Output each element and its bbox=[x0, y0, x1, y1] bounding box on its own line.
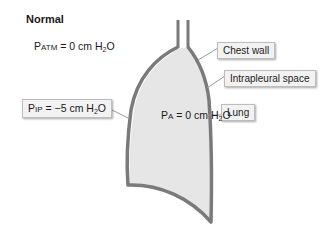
trachea-icon bbox=[178, 20, 188, 48]
pressure-value: = −5 cm H bbox=[43, 102, 94, 114]
lung-chest-diagram bbox=[0, 0, 335, 245]
intrapleural-space-label: Intrapleural space bbox=[224, 70, 316, 87]
p-symbol: P bbox=[28, 102, 35, 114]
intrapleural-leader bbox=[207, 76, 225, 88]
pressure-subscript: IP bbox=[35, 105, 43, 114]
alveolar-pressure-label: PA = 0 cm H2O bbox=[161, 109, 231, 122]
h2o-suffix: O bbox=[98, 102, 106, 114]
h2o-suffix: O bbox=[223, 109, 231, 121]
pressure-value: = 0 cm H bbox=[173, 109, 218, 121]
p-symbol: P bbox=[161, 109, 168, 121]
chest-wall-leader bbox=[198, 48, 218, 60]
pip-leader bbox=[112, 110, 128, 118]
chest-wall-label: Chest wall bbox=[217, 42, 275, 59]
intrapleural-pressure-label: PIP = −5 cm H2O bbox=[22, 99, 112, 118]
